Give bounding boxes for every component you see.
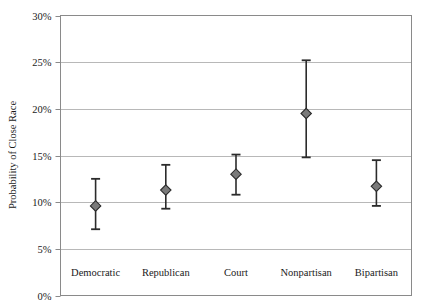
chart-background — [0, 0, 425, 308]
y-tick-label: 25% — [32, 57, 52, 68]
y-axis-label-text: Probability of Close Race — [7, 101, 18, 210]
x-category-label-bipartisan: Bipartisan — [355, 267, 399, 278]
x-category-label-republican: Republican — [142, 267, 191, 278]
y-tick-label: 10% — [32, 197, 52, 208]
x-category-label-democratic: Democratic — [71, 267, 120, 278]
y-tick-label: 0% — [38, 291, 52, 302]
y-axis-label: Probability of Close Race — [7, 101, 18, 210]
x-category-label-court: Court — [224, 267, 248, 278]
y-tick-label: 15% — [32, 151, 52, 162]
close-race-probability-chart: 30%25%20%15%10%5%0% Probability of Close… — [0, 0, 425, 308]
x-category-label-nonpartisan: Nonpartisan — [281, 267, 333, 278]
y-tick-label: 20% — [32, 104, 52, 115]
y-tick-label: 30% — [32, 11, 52, 22]
chart-container: 30%25%20%15%10%5%0% Probability of Close… — [0, 0, 425, 308]
y-tick-label: 5% — [38, 244, 52, 255]
